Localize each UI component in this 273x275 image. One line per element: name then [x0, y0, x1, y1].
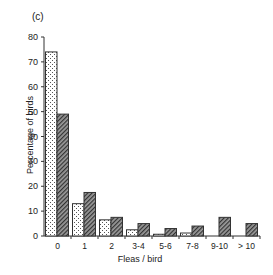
bar-hatched [84, 192, 96, 236]
y-tick-label: 70 [28, 57, 38, 67]
y-tick-label: 50 [28, 107, 38, 117]
bar-hatched [138, 224, 150, 236]
x-tick-label: 9-10 [211, 241, 228, 251]
x-tick-label: 0 [55, 241, 60, 251]
bar-stippled [127, 230, 139, 236]
bar-hatched [111, 217, 123, 236]
x-tick-label: 2 [109, 241, 114, 251]
bar-hatched [165, 229, 177, 236]
bar-stippled [181, 233, 193, 236]
x-tick-label: 7-8 [186, 241, 199, 251]
y-tick-label: 10 [28, 206, 38, 216]
bars [46, 52, 258, 236]
y-tick-label: 30 [28, 156, 38, 166]
y-tick-label: 40 [28, 132, 38, 142]
x-tick-label: 1 [82, 241, 87, 251]
y-tick-label: 60 [28, 82, 38, 92]
x-tick-label: 3-4 [132, 241, 145, 251]
bar-hatched [246, 224, 258, 236]
y-tick-label: 80 [28, 32, 38, 42]
x-tick-label: > 10 [238, 241, 255, 251]
bar-stippled [73, 204, 85, 236]
y-tick-label: 0 [33, 231, 38, 241]
bar-stippled [154, 234, 166, 236]
bar-hatched [57, 114, 69, 236]
bar-stippled [100, 220, 112, 236]
bar-chart: 010203040506070800123-45-67-89-10> 10 [0, 0, 273, 275]
x-tick-label: 5-6 [159, 241, 172, 251]
bar-stippled [46, 52, 58, 236]
y-tick-label: 20 [28, 181, 38, 191]
bar-hatched [219, 217, 231, 236]
bar-hatched [192, 226, 204, 236]
